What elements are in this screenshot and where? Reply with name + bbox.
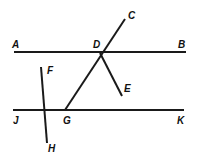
point-label-k: K <box>177 115 185 126</box>
point-label-h: H <box>48 143 56 154</box>
point-label-g: G <box>63 115 71 126</box>
lines-group <box>13 19 186 143</box>
geometry-canvas: A B C D E F G H J K <box>0 0 198 162</box>
point-label-e: E <box>124 83 131 94</box>
point-label-b: B <box>178 39 185 50</box>
point-label-d: D <box>93 39 100 50</box>
labels-group: A B C D E F G H J K <box>11 10 185 154</box>
point-label-a: A <box>11 39 19 50</box>
geometry-diagram: A B C D E F G H J K <box>0 0 198 162</box>
point-label-c: C <box>128 10 136 21</box>
line-cg <box>65 19 125 110</box>
line-fh <box>41 67 47 143</box>
point-label-f: F <box>47 65 54 76</box>
point-label-j: J <box>13 115 19 126</box>
line-de <box>100 53 122 96</box>
